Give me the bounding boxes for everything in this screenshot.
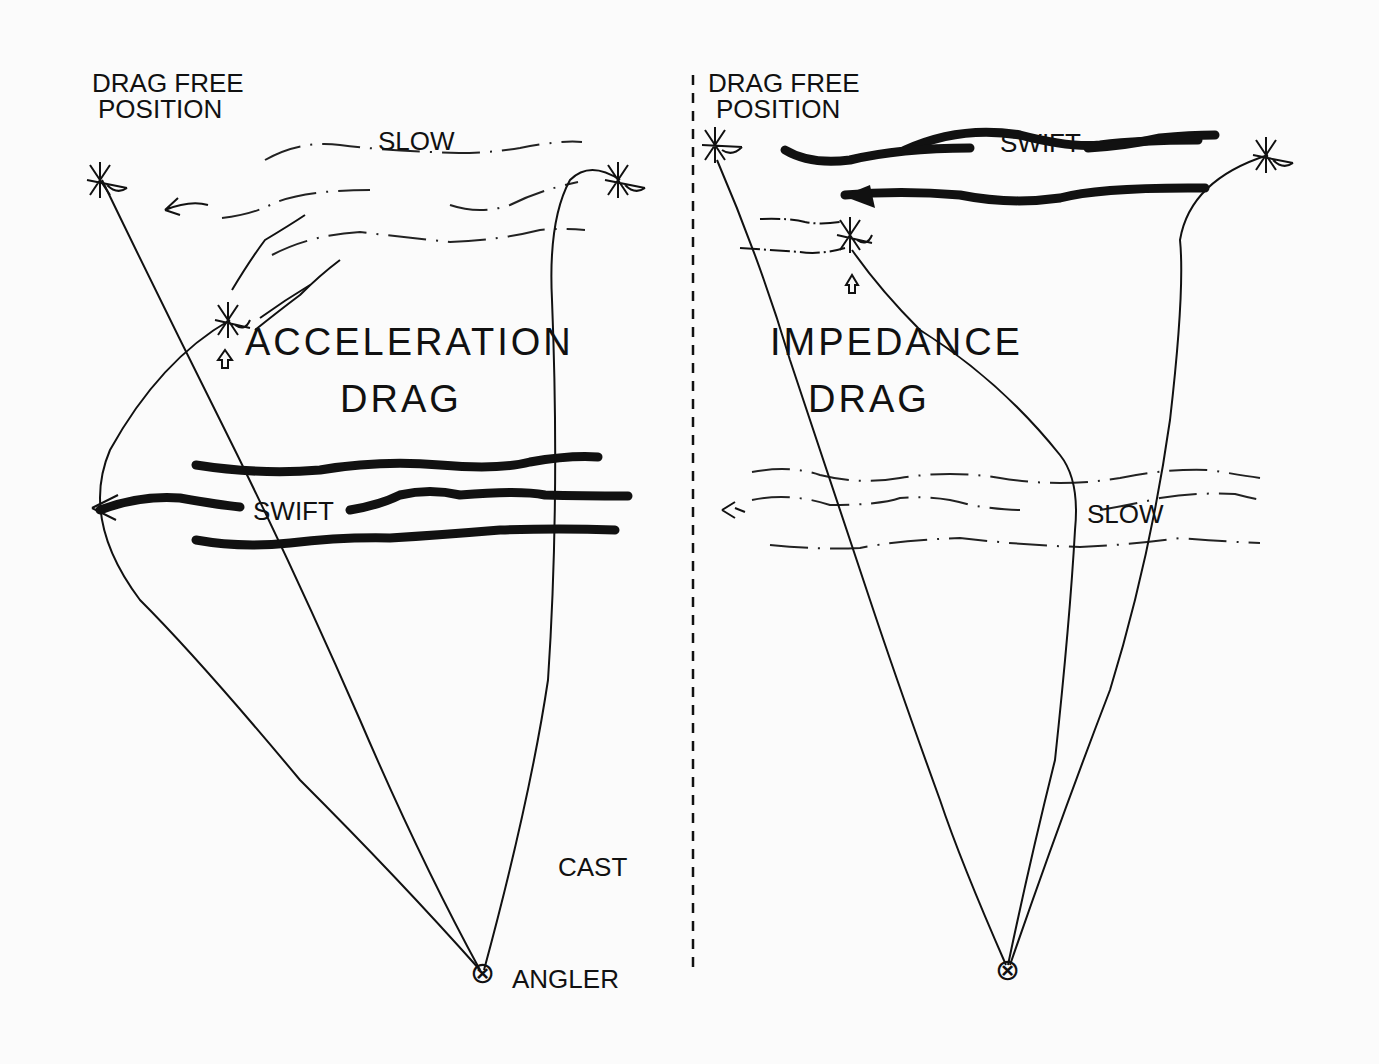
swift-current-line [196, 529, 615, 545]
left-title-line2: DRAG [340, 378, 462, 420]
slow-current-line [770, 538, 1260, 549]
line-path-drag-free [717, 160, 1006, 965]
line-path-cast [1010, 155, 1268, 965]
cast-label: CAST [558, 852, 627, 882]
wake-line [232, 215, 305, 290]
wake-line [760, 219, 840, 224]
left-slow-label: SLOW [378, 126, 455, 156]
fly-icon [605, 162, 645, 198]
swift-current-line [785, 148, 970, 161]
wake-line [260, 285, 310, 318]
left-drag-free-label-2: POSITION [98, 94, 222, 124]
slow-current-line [222, 190, 370, 218]
arrow-left-icon [843, 185, 875, 208]
swift-current-line [100, 498, 240, 511]
fly-icon [837, 217, 872, 253]
arrow-up-icon [846, 275, 858, 293]
wake-line [740, 248, 845, 253]
right-title-line2: DRAG [808, 378, 930, 420]
drag-diagram: DRAG FREE POSITION SLOW ACCELERATION DRA… [0, 0, 1379, 1064]
line-path-cast [484, 170, 620, 970]
angler-icon: ⊗ [995, 953, 1020, 986]
wake-line [255, 260, 340, 330]
right-panel: DRAG FREE POSITION SWIFT IMPEDANCE DRAG … [702, 68, 1293, 986]
arrow-left-icon [722, 502, 745, 518]
slow-current-line [272, 229, 585, 255]
fly-icon [702, 127, 742, 163]
angler-label: ANGLER [512, 964, 619, 994]
angler-icon: ⊗ [470, 956, 495, 989]
right-title-line1: IMPEDANCE [770, 321, 1023, 363]
right-swift-label: SWIFT [1000, 128, 1081, 158]
left-title-line1: ACCELERATION [245, 321, 574, 363]
swift-current-line [845, 188, 1205, 201]
arrow-up-icon [218, 350, 232, 368]
slow-current-line [752, 497, 1020, 510]
right-drag-free-label-2: POSITION [716, 94, 840, 124]
line-path-drag-free [102, 180, 480, 970]
arrow-left-icon [165, 198, 208, 215]
swift-current-line [196, 457, 598, 472]
fly-icon [1253, 137, 1293, 173]
left-panel: DRAG FREE POSITION SLOW ACCELERATION DRA… [87, 68, 645, 994]
swift-current-line [350, 492, 628, 511]
